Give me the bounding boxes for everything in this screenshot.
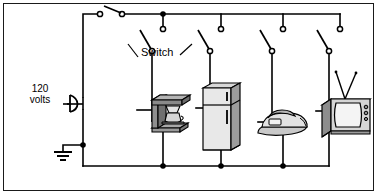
leader-line-right [180, 44, 192, 55]
appliance-coffee-maker [152, 95, 190, 132]
junction-dots [80, 11, 286, 169]
switch-television[interactable] [317, 26, 343, 53]
circuit-diagram-image: 120volts Switch [0, 0, 379, 196]
junction-dot-bottom-iron [280, 163, 286, 169]
junction-dot-bottom-coffee [160, 163, 166, 169]
junction-dot-ground [80, 142, 86, 148]
voltage-source-symbol [63, 95, 83, 112]
voltage-source-label: 120volts [22, 83, 58, 105]
switch-refrigerator[interactable] [198, 26, 224, 53]
wire-source-to-main-switch [83, 14, 100, 97]
appliance-refrigerator [203, 83, 240, 150]
junction-dot-bottom-refrigerator [218, 163, 224, 169]
leader-line-left [128, 44, 138, 57]
ground-symbol [54, 152, 72, 160]
wire-ground-stub [63, 145, 83, 152]
junction-dot-top-rail [160, 11, 166, 17]
appliance-iron [258, 110, 307, 135]
voltage-unit: volts [30, 94, 51, 105]
switch-iron[interactable] [260, 26, 286, 53]
switch-label: Switch [141, 47, 173, 58]
switch-main[interactable] [97, 6, 124, 17]
voltage-value: 120 [32, 83, 49, 94]
